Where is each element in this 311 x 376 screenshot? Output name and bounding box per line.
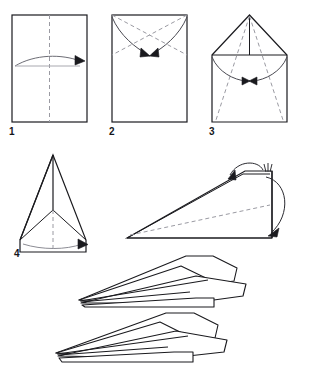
paper-airplane-instruction-diagram [0,0,311,376]
step-4-figure [20,155,88,252]
step-3-figure [212,15,287,122]
step-2-number-label: 2 [109,127,115,137]
step-2-paper-outline [112,15,187,122]
step-1-figure [12,15,87,122]
step-4-number-label: 4 [14,249,20,259]
finished-plane-upper-figure [79,256,246,307]
step-3-number-label: 3 [209,127,215,137]
side-view-figure [127,163,285,238]
diagram-page: 1 2 3 4 [0,0,311,376]
crease-hatch-mark [264,163,272,172]
side-view-body-outline [127,171,272,238]
step-1-number-label: 1 [9,127,15,137]
step-2-figure [112,15,187,122]
finished-plane-lower-figure [56,313,227,362]
